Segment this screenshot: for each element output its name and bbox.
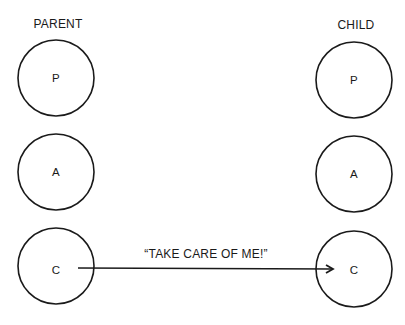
parent-node-a-label: A bbox=[52, 166, 60, 178]
arrow-label: “TAKE CARE OF ME!” bbox=[144, 247, 267, 261]
parent-column-title: PARENT bbox=[34, 17, 83, 31]
child-node-p: P bbox=[316, 42, 392, 118]
arrow-line-icon bbox=[78, 268, 333, 269]
child-node-c-label: C bbox=[350, 264, 359, 276]
parent-node-c: C bbox=[18, 228, 94, 304]
transactional-diagram: PARENT CHILD P A C P A C “TAKE CARE OF M… bbox=[0, 0, 405, 325]
parent-node-p: P bbox=[18, 40, 94, 116]
parent-node-c-label: C bbox=[52, 264, 61, 276]
child-node-p-label: P bbox=[350, 74, 358, 86]
parent-node-a: A bbox=[18, 134, 94, 210]
child-node-a: A bbox=[316, 136, 392, 212]
transaction-arrow: “TAKE CARE OF ME!” bbox=[78, 247, 333, 269]
parent-node-p-label: P bbox=[52, 72, 60, 84]
child-node-a-label: A bbox=[350, 168, 358, 180]
child-column-title: CHILD bbox=[337, 18, 374, 32]
